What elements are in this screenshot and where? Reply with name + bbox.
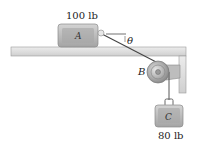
block-c-label: C	[165, 112, 172, 122]
pulley-b	[147, 61, 169, 83]
pulley-label: B	[137, 66, 145, 77]
block-c-weight: 80 lb	[158, 130, 184, 141]
pulley-system-diagram: B A 100 lb θ C 80 lb	[0, 0, 197, 146]
angle-label: θ	[127, 35, 133, 46]
block-a-weight: 100 lb	[66, 10, 98, 21]
horizontal-surface	[11, 47, 186, 56]
block-a-label: A	[74, 31, 82, 41]
